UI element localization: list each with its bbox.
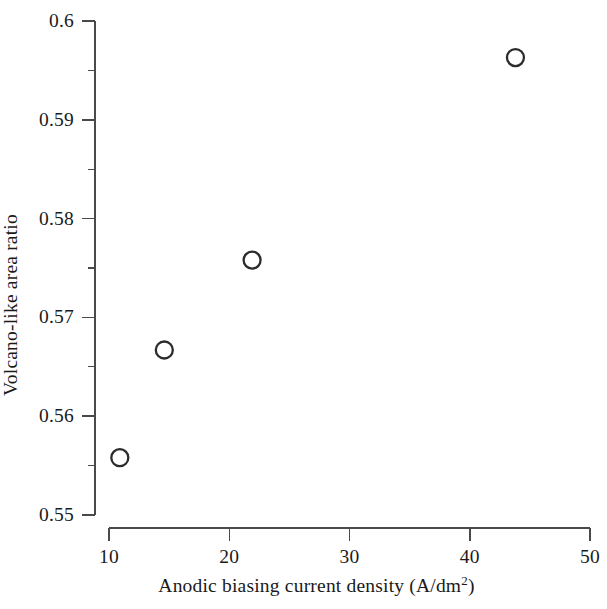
scatter-chart-figure: 0.550.560.570.580.590.6 1020304050 Anodi… <box>0 0 607 609</box>
x-axis-tick-label: 20 <box>219 546 239 568</box>
data-point-marker <box>156 342 173 359</box>
x-axis-title-superscript: 2 <box>461 573 468 588</box>
x-axis-tick-label: 40 <box>460 546 480 568</box>
data-point-marker <box>507 49 524 66</box>
plot-canvas <box>0 0 607 609</box>
x-axis-tick-label: 10 <box>99 546 119 568</box>
x-axis-title-base: Anodic biasing current density (A/dm <box>158 575 461 596</box>
x-axis-tick-label: 30 <box>340 546 360 568</box>
x-axis-title-tail: ) <box>468 575 475 596</box>
y-axis-tick-label: 0.55 <box>0 504 74 526</box>
y-axis-tick-label: 0.6 <box>0 10 74 32</box>
x-axis-title: Anodic biasing current density (A/dm2) <box>13 575 607 597</box>
data-point-marker <box>244 252 261 269</box>
data-point-marker <box>111 449 128 466</box>
x-axis-tick-label: 50 <box>580 546 600 568</box>
y-axis-title: Volcano-like area ratio <box>0 105 22 505</box>
